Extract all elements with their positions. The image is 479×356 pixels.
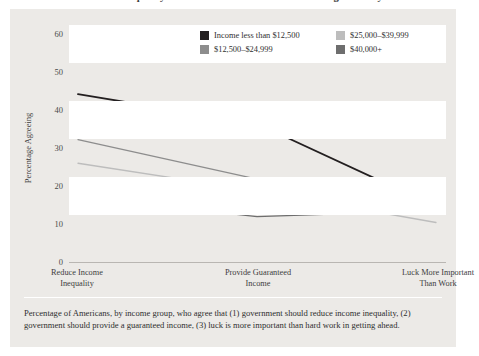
legend-item-25000-39999: $25,000–$39,999 <box>336 31 444 40</box>
y-tick-label: 0 <box>17 257 63 267</box>
figure-title-strip: Income Inequality and Beliefs about Fair… <box>0 0 466 9</box>
x-tick-line-1: Provide Guaranteed <box>225 268 291 277</box>
y-axis-ticks: 60 50 40 30 20 10 0 <box>10 9 63 290</box>
x-tick-label-provide-guaranteed-income: Provide Guaranteed Income <box>198 267 318 289</box>
legend-swatch-icon <box>336 45 345 54</box>
legend-item-label: $12,500–$24,999 <box>214 45 273 54</box>
legend-item-label: $25,000–$39,999 <box>350 31 409 40</box>
x-tick-label-reduce-income-inequality: Reduce Income Inequality <box>17 267 137 289</box>
legend-item-label: $40,000+ <box>350 45 382 54</box>
figure-panel: 60 50 40 30 20 10 0 Percentage Agreeing … <box>10 9 456 347</box>
legend-swatch-icon <box>200 31 209 40</box>
x-tick-label-luck-more-important-than-work: Luck More Important Than Work <box>378 267 479 289</box>
grid-band <box>69 177 446 215</box>
legend-item-40000-plus: $40,000+ <box>336 45 444 54</box>
legend-item-income-less-than-12500: Income less than $12,500 <box>200 31 336 40</box>
x-tick-line-1: Luck More Important <box>402 268 474 277</box>
chart-legend: Income less than $12,500 $25,000–$39,999… <box>200 28 444 56</box>
y-axis-title: Percentage Agreeing <box>23 88 33 208</box>
x-tick-line-2: Income <box>246 279 271 288</box>
caption-divider <box>24 297 442 298</box>
y-tick-label: 50 <box>17 67 63 77</box>
plot-region <box>69 25 446 262</box>
x-tick-line-2: Inequality <box>60 279 94 288</box>
x-tick-line-1: Reduce Income <box>51 268 103 277</box>
x-tick-line-2: Than Work <box>419 279 456 288</box>
legend-item-label: Income less than $12,500 <box>214 31 300 40</box>
x-axis-line <box>69 262 446 263</box>
legend-swatch-icon <box>200 45 209 54</box>
grid-band <box>69 101 446 139</box>
y-tick-label: 60 <box>17 29 63 39</box>
chart-area: 60 50 40 30 20 10 0 Percentage Agreeing … <box>10 9 456 290</box>
legend-item-12500-24999: $12,500–$24,999 <box>200 45 336 54</box>
figure-caption: Percentage of Americans, by income group… <box>24 307 444 332</box>
legend-swatch-icon <box>336 31 345 40</box>
figure-title: Income Inequality and Beliefs about Fair… <box>0 0 466 2</box>
y-tick-label: 10 <box>17 219 63 229</box>
